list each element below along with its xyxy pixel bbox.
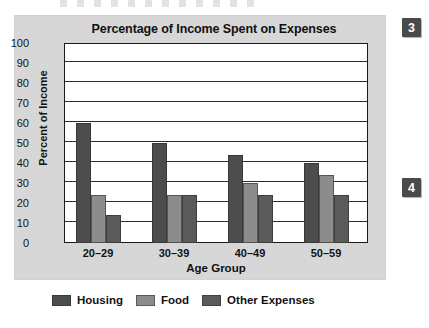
gridline-40 — [65, 161, 367, 162]
gridline-80 — [65, 81, 367, 82]
legend-label: Food — [161, 294, 189, 306]
margin-badge-4[interactable]: 4 — [402, 178, 421, 197]
y-tick-label-30: 30 — [0, 177, 29, 189]
legend-entry[interactable]: Housing — [52, 294, 123, 306]
legend-entry[interactable]: Other Expenses — [202, 294, 315, 306]
x-axis-title: Age Group — [64, 262, 368, 274]
y-tick-label-20: 20 — [0, 197, 29, 209]
chart-title: Percentage of Income Spent on Expenses — [14, 22, 386, 36]
y-tick-label-50: 50 — [0, 137, 29, 149]
gridline-70 — [65, 101, 367, 102]
x-tick-label: 20–29 — [83, 247, 114, 259]
x-tick-label: 30–39 — [159, 247, 190, 259]
legend-entry[interactable]: Food — [136, 294, 189, 306]
gridline-90 — [65, 61, 367, 62]
y-axis-title: Percent of Income — [37, 58, 49, 178]
figure: Percentage of Income Spent on Expenses P… — [0, 0, 429, 328]
y-tick-label-10: 10 — [0, 217, 29, 229]
y-tick-label-80: 80 — [0, 77, 29, 89]
y-tick-label-70: 70 — [0, 97, 29, 109]
y-tick-label-90: 90 — [0, 57, 29, 69]
chart-legend: HousingFoodOther Expenses — [52, 294, 315, 306]
gridline-50 — [65, 141, 367, 142]
chart-panel: Percentage of Income Spent on Expenses P… — [14, 15, 386, 280]
legend-swatch-icon — [136, 295, 155, 306]
gridline-20 — [65, 201, 367, 202]
gridline-30 — [65, 181, 367, 182]
x-tick-label: 50–59 — [311, 247, 342, 259]
gridline-60 — [65, 121, 367, 122]
plot-area — [64, 43, 368, 243]
margin-badge-3[interactable]: 3 — [402, 18, 421, 37]
y-tick-label-60: 60 — [0, 117, 29, 129]
legend-label: Other Expenses — [227, 294, 315, 306]
gridline-10 — [65, 221, 367, 222]
legend-label: Housing — [77, 294, 123, 306]
legend-swatch-icon — [202, 295, 221, 306]
scan-artifact — [60, 0, 260, 7]
y-tick-label-0: 0 — [0, 237, 29, 249]
y-tick-label-100: 100 — [0, 37, 29, 49]
y-tick-label-40: 40 — [0, 157, 29, 169]
legend-swatch-icon — [52, 295, 71, 306]
x-tick-label: 40–49 — [235, 247, 266, 259]
